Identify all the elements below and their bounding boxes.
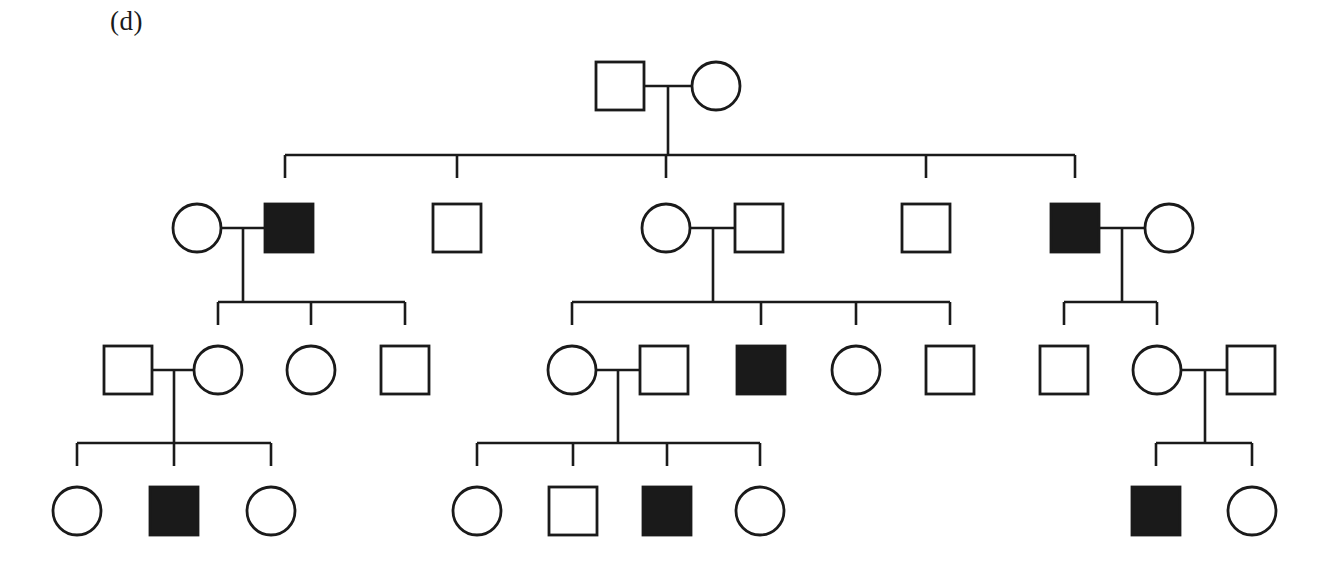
individual-IV-2-male-affected bbox=[150, 487, 198, 535]
individual-III-7-male-affected bbox=[737, 346, 785, 394]
individual-IV-4-female-unaffected bbox=[453, 487, 501, 535]
individual-III-2-female-unaffected bbox=[194, 346, 242, 394]
pedigree-diagram bbox=[0, 0, 1326, 572]
individual-I-1-male-unaffected bbox=[596, 62, 644, 110]
connector-lines bbox=[77, 86, 1252, 466]
individual-IV-3-female-unaffected bbox=[247, 487, 295, 535]
individual-II-2-male-affected bbox=[265, 204, 313, 252]
individual-III-9-male-unaffected bbox=[926, 346, 974, 394]
individual-II-7-male-affected bbox=[1051, 204, 1099, 252]
pedigree-figure: (d) bbox=[0, 0, 1326, 572]
individual-IV-1-female-unaffected bbox=[53, 487, 101, 535]
individual-III-12-male-unaffected bbox=[1227, 346, 1275, 394]
individual-IV-8-male-affected bbox=[1132, 487, 1180, 535]
individual-III-1-male-unaffected bbox=[104, 346, 152, 394]
individual-symbols bbox=[53, 62, 1276, 535]
individual-III-8-female-unaffected bbox=[832, 346, 880, 394]
individual-IV-5-male-unaffected bbox=[549, 487, 597, 535]
individual-IV-9-female-unaffected bbox=[1228, 487, 1276, 535]
individual-III-10-male-unaffected bbox=[1040, 346, 1088, 394]
individual-III-4-male-unaffected bbox=[381, 346, 429, 394]
individual-II-1-female-unaffected bbox=[173, 204, 221, 252]
individual-IV-7-female-unaffected bbox=[736, 487, 784, 535]
individual-II-4-female-unaffected bbox=[642, 204, 690, 252]
individual-II-5-male-unaffected bbox=[735, 204, 783, 252]
individual-III-6-male-unaffected bbox=[640, 346, 688, 394]
individual-II-3-male-unaffected bbox=[433, 204, 481, 252]
individual-I-2-female-unaffected bbox=[692, 62, 740, 110]
individual-II-8-female-unaffected bbox=[1145, 204, 1193, 252]
individual-IV-6-male-affected bbox=[643, 487, 691, 535]
individual-III-5-female-unaffected bbox=[548, 346, 596, 394]
individual-III-3-female-unaffected bbox=[287, 346, 335, 394]
individual-II-6-male-unaffected bbox=[902, 204, 950, 252]
individual-III-11-female-unaffected bbox=[1133, 346, 1181, 394]
